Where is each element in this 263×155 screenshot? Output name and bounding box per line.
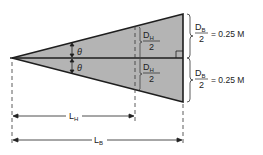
svg-text:2: 2 (199, 34, 204, 44)
db-brace-top (187, 14, 193, 58)
lb-label: LB (94, 135, 103, 146)
theta-bottom-label: θ (77, 63, 82, 73)
cone-geometry-diagram: θ θ DH 2 DH 2 DB 2 = 0.25 M DB 2 = 0.25 … (0, 0, 263, 155)
db-half-bottom-label: DB 2 = 0.25 M (195, 68, 244, 90)
lh-label: LH (69, 111, 78, 122)
db-half-top-label: DB 2 = 0.25 M (195, 22, 244, 44)
svg-text:= 0.25 M: = 0.25 M (211, 75, 244, 85)
svg-text:DB: DB (195, 68, 206, 79)
svg-text:= 0.25 M: = 0.25 M (211, 29, 244, 39)
svg-text:2: 2 (199, 80, 204, 90)
db-brace-bottom (187, 58, 193, 102)
svg-text:2: 2 (149, 42, 154, 52)
svg-text:DB: DB (195, 22, 206, 33)
svg-text:2: 2 (149, 74, 154, 84)
theta-top-label: θ (77, 47, 82, 57)
